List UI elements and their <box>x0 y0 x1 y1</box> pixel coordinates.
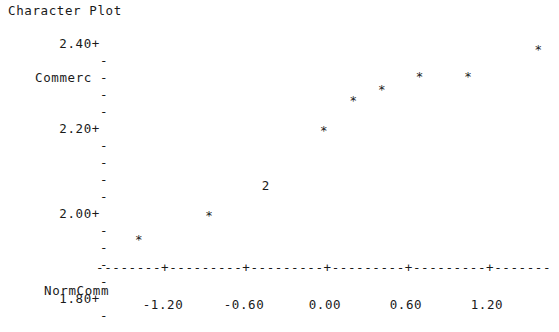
y-axis-minor-tick: - <box>100 87 108 102</box>
data-point: * <box>533 44 543 57</box>
x-axis-tick-label: -1.20 <box>141 297 185 312</box>
data-point: 2 <box>261 180 271 193</box>
x-axis-tick-label: 0.00 <box>303 297 347 312</box>
y-axis-minor-tick: - <box>100 155 108 170</box>
y-axis-minor-tick: - <box>100 138 108 153</box>
y-axis-minor-tick: - <box>100 104 108 119</box>
character-plot-canvas: Character Plot2.40+--Commerc--2.20+----2… <box>0 0 559 332</box>
page-title: Character Plot <box>8 3 122 18</box>
y-axis-minor-tick: - <box>100 308 108 323</box>
y-axis-minor-tick: - <box>100 223 108 238</box>
data-point: * <box>204 210 214 223</box>
data-point: * <box>319 125 329 138</box>
x-axis-name: NormComm <box>44 283 109 298</box>
x-axis-tick-label: 1.20 <box>465 297 509 312</box>
data-point: * <box>415 71 425 84</box>
y-axis-minor-tick: - <box>100 70 108 85</box>
data-point: * <box>463 71 473 84</box>
y-axis-tick-label: 2.20+ <box>30 121 100 136</box>
x-axis-line: --------+---------+---------+---------+-… <box>96 261 548 275</box>
data-point: * <box>134 234 144 247</box>
y-axis-tick-label: 2.00+ <box>30 206 100 221</box>
y-axis-minor-tick: - <box>100 240 108 255</box>
data-point: * <box>348 95 358 108</box>
x-axis-tick-label: -0.60 <box>222 297 266 312</box>
y-axis-minor-tick: - <box>100 172 108 187</box>
x-axis-tick-label: 0.60 <box>384 297 428 312</box>
data-point: * <box>377 84 387 97</box>
y-axis-name: Commerc <box>0 70 92 85</box>
y-axis-tick-label: 2.40+ <box>30 36 100 51</box>
y-axis-minor-tick: - <box>100 53 108 68</box>
y-axis-minor-tick: - <box>100 189 108 204</box>
